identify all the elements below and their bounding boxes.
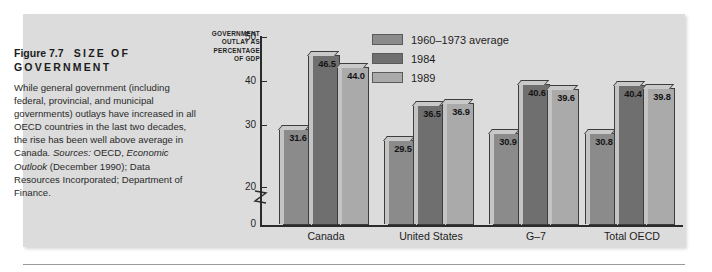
bottom-divider-rule <box>23 264 685 265</box>
bars-layer: 31.6 46.5 44.0 Canada 29.5 36.5 36.9 Uni… <box>262 14 683 227</box>
bar-g7-1989: 39.6 <box>551 89 579 225</box>
bar-g7-1984: 40.6 <box>522 84 550 225</box>
y-tick-label-0: 0 <box>234 219 256 229</box>
bar-canada-1989: 44.0 <box>341 67 369 225</box>
bar-us-1960-1973: 29.5 <box>388 140 416 226</box>
category-label-g7: G–7 <box>486 230 586 242</box>
y-axis-title-line-3: PERCENTAGE <box>206 47 260 55</box>
bar-group-total-oecd: 30.8 40.4 39.8 Total OECD <box>582 14 682 227</box>
chart-plot-area: GOVERNMENT OUTLAY AS PERCENTAGE OF GDP 5… <box>206 14 685 247</box>
bar-value-canada-2: 44.0 <box>342 71 370 81</box>
figure-caption-block: Figure 7.7 SIZE OF GOVERNMENT While gene… <box>14 46 196 199</box>
bar-value-g7-2: 39.6 <box>552 93 580 103</box>
bar-canada-1960-1973: 31.6 <box>283 129 311 225</box>
bar-us-1989: 36.9 <box>446 103 474 226</box>
figure-caption-text: While general government (including fede… <box>14 81 196 199</box>
bar-oecd-1989: 39.8 <box>647 88 675 225</box>
bar-value-us-2: 36.9 <box>447 107 475 117</box>
figure-title-line1: SIZE OF <box>74 47 130 59</box>
bar-oecd-1960-1973: 30.8 <box>589 133 617 225</box>
bar-value-oecd-2: 39.8 <box>648 92 676 102</box>
bar-group-united-states: 29.5 36.5 36.9 United States <box>381 14 481 227</box>
y-axis-title-line-4: OF GDP <box>206 55 260 63</box>
y-tick-label-30: 30 <box>234 120 256 130</box>
figure-title-line2: GOVERNMENT <box>14 61 111 73</box>
bar-group-canada: 31.6 46.5 44.0 Canada <box>276 14 376 227</box>
bar-us-1984: 36.5 <box>417 105 445 226</box>
figure-title: Figure 7.7 SIZE OF GOVERNMENT <box>14 46 196 74</box>
bar-g7-1960-1973: 30.9 <box>493 133 521 226</box>
bar-oecd-1984: 40.4 <box>618 85 646 225</box>
category-label-canada: Canada <box>276 230 376 242</box>
bar-canada-1984: 46.5 <box>312 55 340 226</box>
category-label-total-oecd: Total OECD <box>582 230 682 242</box>
bar-group-g7: 30.9 40.6 39.6 G–7 <box>486 14 586 227</box>
category-label-united-states: United States <box>381 230 481 242</box>
figure-number: Figure 7.7 <box>14 47 64 59</box>
y-tick-label-50: 50 <box>234 32 256 42</box>
y-tick-label-40: 40 <box>234 76 256 86</box>
